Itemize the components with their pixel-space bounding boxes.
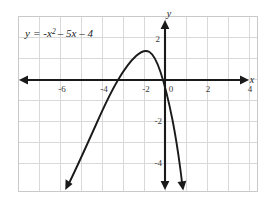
x-tick-label-0: 0 [169, 84, 174, 94]
graph-figure: -6 -4 -2 0 2 4 2 -2 -4 x y y=-x2– 5x– 4 [0, 0, 274, 207]
equation-lhs: y [24, 27, 30, 39]
equation-term1-base: -x [43, 27, 52, 39]
y-tick-label--4: -4 [155, 158, 163, 168]
equation-label: y=-x2– 5x– 4 [24, 27, 94, 40]
equation-text: y=-x2– 5x– 4 [24, 27, 94, 40]
equation-term1-exponent: 2 [52, 27, 56, 36]
equation-term3: – 4 [78, 27, 93, 39]
x-tick-label--4: -4 [100, 84, 108, 94]
figure-background [0, 0, 274, 207]
x-tick-label--6: -6 [58, 84, 66, 94]
x-axis-label: x [249, 74, 255, 85]
x-tick-label-4: 4 [248, 84, 253, 94]
y-tick-label-2: 2 [156, 34, 161, 44]
x-tick-label-2: 2 [206, 84, 211, 94]
equation-term2: – 5x [57, 27, 77, 39]
equation-equals: = [33, 27, 40, 39]
x-tick-label--2: -2 [142, 84, 150, 94]
y-axis-label: y [166, 8, 172, 19]
parabola-graph-svg: -6 -4 -2 0 2 4 2 -2 -4 x y y=-x2– 5x– 4 [0, 0, 274, 207]
y-tick-label--2: -2 [155, 116, 163, 126]
